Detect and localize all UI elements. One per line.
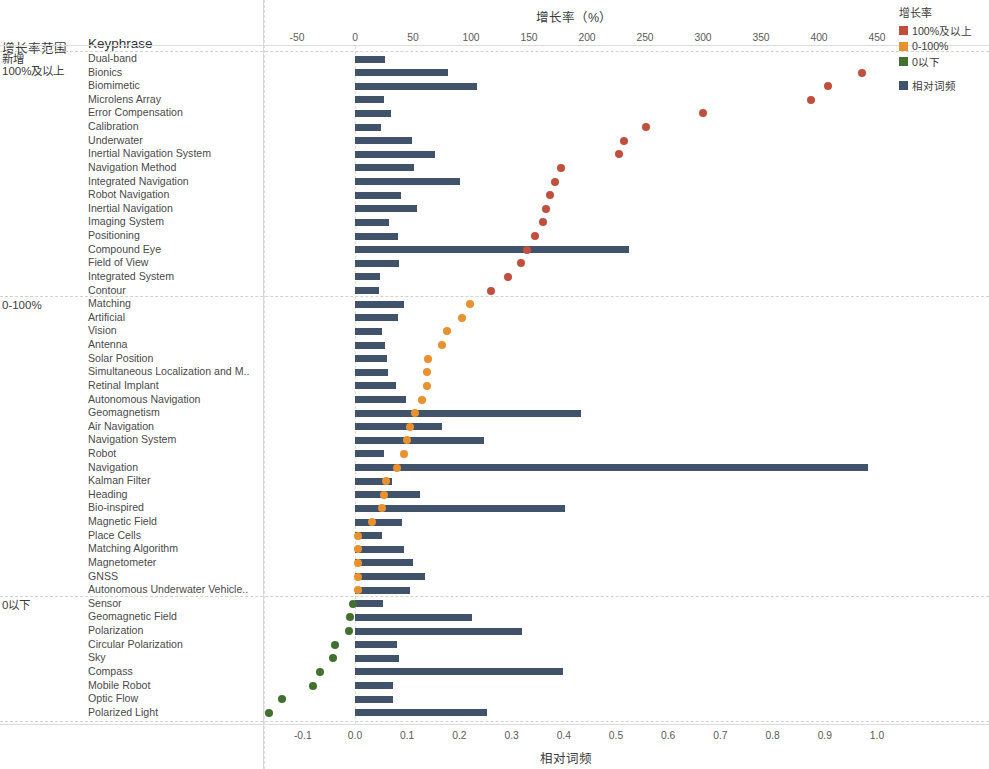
growth-dot — [316, 668, 324, 676]
top-tick-4: 150 — [520, 32, 537, 43]
growth-dot — [539, 218, 547, 226]
growth-dot — [466, 300, 474, 308]
horizontal-gridline — [0, 596, 989, 597]
bar — [355, 110, 391, 117]
bar — [355, 396, 406, 403]
growth-dot — [523, 246, 531, 254]
top-tick-0: -50 — [290, 32, 305, 43]
bar — [355, 587, 410, 594]
bar — [355, 682, 393, 689]
bottom-axis-title: 相对词频 — [540, 748, 592, 767]
keyphrase-label: Polarization — [88, 625, 143, 636]
legend-item[interactable]: 100%及以上 — [899, 23, 989, 38]
growth-dot — [487, 287, 495, 295]
growth-dot — [329, 654, 337, 662]
growth-dot — [278, 695, 286, 703]
legend-item-relative-frequency[interactable]: 相对词频 — [899, 78, 989, 93]
bar — [355, 164, 414, 171]
legend-item-label: 相对词频 — [912, 78, 956, 93]
keyphrase-label: Heading — [88, 489, 127, 500]
bar — [355, 410, 581, 417]
keyphrase-label: Robot — [88, 448, 116, 459]
horizontal-gridline — [0, 724, 989, 725]
keyphrase-label: Geomagnetic Field — [88, 611, 177, 622]
growth-dot — [393, 464, 401, 472]
bar — [355, 69, 448, 76]
legend-item[interactable]: 0以下 — [899, 54, 989, 69]
bar — [355, 83, 477, 90]
bar — [355, 437, 484, 444]
top-tick-7: 300 — [694, 32, 711, 43]
horizontal-gridline — [0, 296, 989, 297]
legend-item[interactable]: 0-100% — [899, 40, 989, 52]
bar — [355, 246, 629, 253]
growth-dot — [517, 259, 525, 267]
bar — [355, 151, 435, 158]
keyphrase-label: Field of View — [88, 257, 148, 268]
legend-title: 增长率 — [899, 4, 989, 20]
bar — [355, 137, 412, 144]
bottom-tick-4: 0.3 — [504, 730, 518, 741]
bar — [355, 614, 472, 621]
growth-dot — [423, 382, 431, 390]
keyphrase-label: Place Cells — [88, 530, 141, 541]
growth-dot — [380, 491, 388, 499]
keyphrase-label: Dual-band — [88, 53, 137, 64]
legend-swatch-icon — [899, 42, 908, 51]
bar — [355, 56, 385, 63]
bottom-tick-9: 0.8 — [765, 730, 779, 741]
group-label-primary: 0以下 — [2, 599, 30, 611]
legend-item-label: 0以下 — [912, 54, 940, 69]
keyphrase-label: Magnetic Field — [88, 516, 157, 527]
keyphrase-label: Circular Polarization — [88, 639, 183, 650]
keyphrase-label: Autonomous Underwater Vehicle.. — [88, 584, 248, 595]
bar — [355, 287, 379, 294]
keyphrase-label: Compass — [88, 666, 133, 677]
growth-dot — [620, 137, 628, 145]
keyphrase-label: Kalman Filter — [88, 475, 150, 486]
growth-dot — [542, 205, 550, 213]
keyphrase-label: Sensor — [88, 598, 122, 609]
growth-dot — [699, 109, 707, 117]
keyphrase-label: Positioning — [88, 230, 140, 241]
keyphrase-label: Simultaneous Localization and M.. — [88, 366, 249, 377]
keyphrase-label: Underwater — [88, 135, 143, 146]
bar — [355, 205, 417, 212]
bar — [355, 178, 460, 185]
bar — [355, 546, 404, 553]
bar — [355, 668, 563, 675]
bar — [355, 519, 402, 526]
keyphrase-label: Geomagnetism — [88, 407, 160, 418]
horizontal-gridline — [0, 51, 989, 52]
bar — [355, 423, 442, 430]
growth-dot — [424, 355, 432, 363]
growth-dot — [546, 191, 554, 199]
keyphrase-label: Magnetometer — [88, 557, 156, 568]
keyphrase-label: Imaging System — [88, 216, 164, 227]
keyphrase-label: Air Navigation — [88, 421, 154, 432]
bottom-tick-8: 0.7 — [713, 730, 727, 741]
bar — [355, 219, 389, 226]
keyphrase-label: Calibration — [88, 121, 139, 132]
keyphrase-label: Biomimetic — [88, 80, 140, 91]
bottom-tick-7: 0.6 — [661, 730, 675, 741]
keyphrase-label: Sky — [88, 652, 106, 663]
keyphrase-label: Integrated System — [88, 271, 174, 282]
keyphrase-label: GNSS — [88, 571, 118, 582]
legend-swatch-icon — [899, 26, 908, 35]
bar — [355, 233, 398, 240]
bar — [355, 450, 384, 457]
top-tick-6: 250 — [636, 32, 653, 43]
keyphrase-label: Vision — [88, 325, 117, 336]
bar — [355, 655, 399, 662]
keyphrase-label: Autonomous Navigation — [88, 394, 200, 405]
chart-root: 增长率（%） 相对词频 增长率范围 Keyphrase -50050100150… — [0, 0, 989, 769]
keyphrase-label: Polarized Light — [88, 707, 158, 718]
group-label-primary: 新增 — [2, 53, 64, 65]
bar — [355, 369, 388, 376]
keyphrase-label: Artificial — [88, 312, 125, 323]
growth-dot — [345, 627, 353, 635]
top-tick-5: 200 — [578, 32, 595, 43]
growth-dot — [504, 273, 512, 281]
keyphrase-label: Navigation Method — [88, 162, 176, 173]
